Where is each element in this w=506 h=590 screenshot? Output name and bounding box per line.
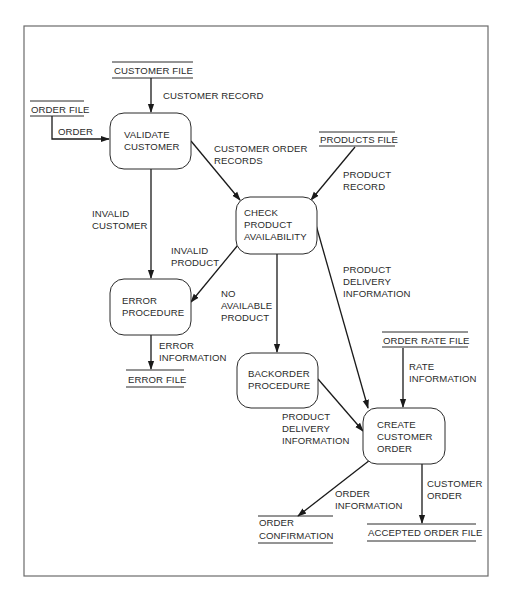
flow-label-order-information: INFORMATION [335,500,403,511]
flow-label-error-information: INFORMATION [159,352,227,363]
flow-label-invalid-product: INVALID [171,245,208,256]
store-products-file: PRODUCTS FILE [319,132,398,146]
flow-label-customer-record: CUSTOMER RECORD [163,90,263,101]
flow-label-no-available-product: AVAILABLE [221,300,272,311]
store-label: ORDER FILE [31,104,90,115]
process-backorder-procedure: BACKORDER PROCEDURE [237,353,318,408]
process-label: AVAILABILITY [244,231,307,242]
flow-label-order: ORDER [58,126,93,137]
store-customer-file: CUSTOMER FILE [112,62,193,78]
store-label: PRODUCTS FILE [320,134,398,145]
data-flow-diagram: CUSTOMER FILE ORDER FILE PRODUCTS FILE E… [0,0,506,590]
flow-label-product-delivery-information-2: DELIVERY [282,423,331,434]
flow-label-no-available-product: PRODUCT [221,312,269,323]
process-label: PROCEDURE [122,307,184,318]
store-error-file: ERROR FILE [126,370,187,387]
flow-label-invalid-customer: CUSTOMER [92,220,148,231]
flow-label-no-available-product: NO [221,288,236,299]
flow-label-product-delivery-information: INFORMATION [343,288,411,299]
process-label: PRODUCT [244,219,292,230]
flow-label-product-delivery-information-2: PRODUCT [282,411,330,422]
store-order-confirmation: ORDER CONFIRMATION [258,516,334,543]
flow-label-product-delivery-information: PRODUCT [343,264,391,275]
process-label: CHECK [244,207,279,218]
store-label: ACCEPTED ORDER FILE [368,527,482,538]
flow-label-customer-order: ORDER [427,490,462,501]
process-label: ERROR [122,295,157,306]
flow-label-customer-order-records: CUSTOMER ORDER [214,143,307,154]
store-label: ORDER RATE FILE [383,335,470,346]
process-label: CUSTOMER [124,141,180,152]
process-check-product-availability: CHECK PRODUCT AVAILABILITY [236,197,317,254]
flow-label-product-record: RECORD [343,181,385,192]
store-order-rate-file: ORDER RATE FILE [382,332,470,347]
process-create-customer-order: CREATE CUSTOMER ORDER [363,408,445,464]
store-label: ORDER [259,517,294,528]
process-label: CUSTOMER [377,431,433,442]
store-order-file: ORDER FILE [30,101,90,116]
process-label: ORDER [377,443,412,454]
flow-label-invalid-product: PRODUCT [171,257,219,268]
flow-label-error-information: ERROR [159,340,194,351]
flow-label-invalid-customer: INVALID [92,208,129,219]
store-label: CONFIRMATION [259,530,334,541]
flow-product-delivery-information [316,225,368,408]
flow-label-product-delivery-information: DELIVERY [343,276,392,287]
flow-label-rate-information: RATE [409,361,434,372]
flow-label-order-information: ORDER [335,488,370,499]
process-validate-customer: VALIDATE CUSTOMER [110,113,191,169]
store-label: ERROR FILE [128,374,187,385]
flow-label-rate-information: INFORMATION [409,373,477,384]
store-accepted-order-file: ACCEPTED ORDER FILE [367,524,482,541]
process-label: CREATE [377,419,416,430]
process-label: PROCEDURE [248,380,310,391]
process-label: VALIDATE [124,129,170,140]
process-label: BACKORDER [248,368,310,379]
process-error-procedure: ERROR PROCEDURE [110,279,191,335]
flow-label-customer-order-records: RECORDS [214,155,263,166]
flow-label-product-delivery-information-2: INFORMATION [282,435,350,446]
store-label: CUSTOMER FILE [114,65,193,76]
flow-label-customer-order: CUSTOMER [427,478,483,489]
flow-label-product-record: PRODUCT [343,169,391,180]
